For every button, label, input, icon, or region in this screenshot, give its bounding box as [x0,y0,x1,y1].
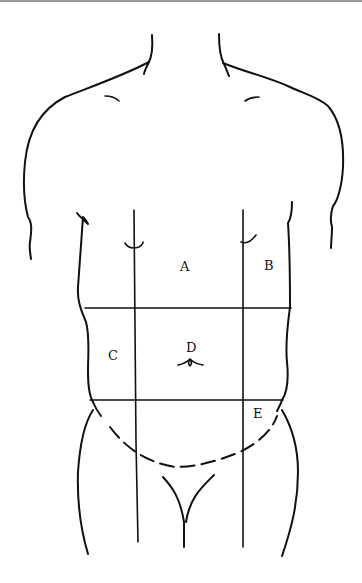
shoulder-left [24,62,149,259]
umbilicus [178,359,203,366]
torso-outline [0,2,362,583]
torso-diagram: A B C D E [0,0,362,583]
clavicle-left [105,96,119,101]
clavicle-right [245,97,259,101]
groin-left [163,477,184,547]
hip-right [282,410,298,556]
region-label-e: E [253,407,263,420]
region-label-a: A [180,260,189,273]
torso-side-right [282,202,292,400]
region-label-c: C [108,349,118,362]
neck-left [144,35,152,74]
region-label-d: D [186,341,196,354]
hip-notch-left [93,402,101,416]
region-label-b: B [264,259,274,272]
midclavicular-line-left [134,210,138,542]
neck-right [219,34,229,76]
shoulder-right [223,63,343,248]
hip-left [78,410,93,554]
groin-right [186,475,214,522]
